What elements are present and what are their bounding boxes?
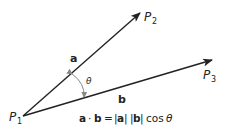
point-p1-label: P 1 [9,110,22,126]
angle-arc [72,74,84,97]
angle-theta-label: θ [86,76,92,86]
vector-a-label: a [70,52,77,65]
svg-text:θ: θ [166,112,173,124]
svg-text:3: 3 [211,75,216,84]
svg-text:·: · [88,112,91,124]
dot-product-formula: a · b = | a | | b | cos θ [79,112,173,125]
svg-text:P: P [9,110,17,124]
svg-text:1: 1 [17,117,22,126]
svg-text:b: b [94,112,102,124]
svg-text:a: a [79,112,86,124]
vector-b-line [23,60,212,116]
point-p2-label: P 2 [144,10,157,26]
svg-text:2: 2 [152,17,157,26]
svg-text:|: | [124,112,128,125]
svg-text:cos: cos [146,112,164,124]
svg-text:|: | [140,112,144,125]
point-p3-label: P 3 [203,68,216,84]
vector-dot-product-diagram: a θ b P 1 P 2 P 3 a · b = | a | | b | co… [0,0,225,136]
svg-text:P: P [203,68,211,82]
svg-text:P: P [144,10,152,24]
vector-b-label: b [118,93,126,106]
svg-text:=: = [104,112,113,124]
